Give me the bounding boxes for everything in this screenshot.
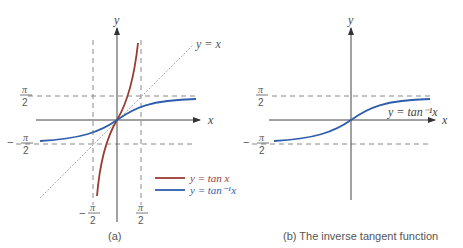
legend-label-tan: y = tan x [189,172,230,184]
svg-text:2: 2 [23,145,29,156]
svg-text:π: π [22,84,28,95]
pi-half-x-label: π 2 [136,202,148,226]
x-axis-label-b: x [441,113,448,127]
legend: y = tan x y = tan⁻¹x [155,172,236,196]
identity-label: y = x [195,37,221,51]
svg-text:−: − [79,207,85,219]
svg-text:−: − [7,136,13,148]
y-axis-label-a: y [113,13,120,27]
y-axis-label-b: y [347,13,354,27]
x-axis-label-a: x [207,113,214,127]
svg-text:2: 2 [259,145,265,156]
curve-label-b: y = tan⁻¹x [387,105,438,119]
legend-label-arctan: y = tan⁻¹x [189,184,236,196]
dashed-guides-a [16,40,196,205]
panel-b: y x y = tan⁻¹x π 2 − π 2 (b) The inverse… [243,13,448,242]
svg-text:π: π [138,202,144,213]
svg-text:2: 2 [138,215,144,226]
svg-text:π: π [259,132,265,143]
neg-pi-half-x-label: − π 2 [79,202,100,226]
caption-a: (a) [108,230,121,242]
caption-b: (b) The inverse tangent function [283,230,438,242]
svg-text:π: π [90,202,96,213]
svg-text:π: π [23,132,29,143]
svg-text:2: 2 [258,97,264,108]
svg-text:2: 2 [90,215,96,226]
svg-text:π: π [258,84,264,95]
panel-a: y x y = x π 2 − π 2 − π 2 π 2 [7,13,236,242]
svg-text:2: 2 [22,97,28,108]
svg-text:−: − [243,136,249,148]
pi-half-label-b: π 2 [256,84,268,108]
